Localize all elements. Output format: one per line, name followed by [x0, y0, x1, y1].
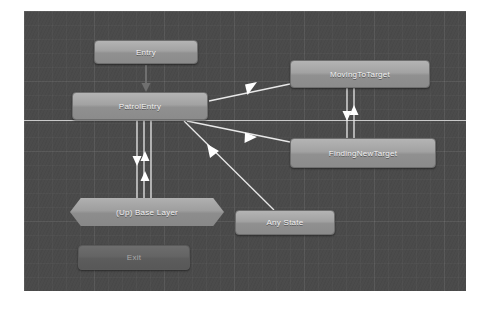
state-node-label: (Up) Base Layer	[116, 208, 178, 217]
transition-patrolentry-to-movingtotarget[interactable]	[209, 82, 290, 101]
transition-anystate-to-patrolentry[interactable]	[184, 121, 274, 210]
state-node-label: MovingToTarget	[330, 70, 390, 79]
state-node-label: Exit	[127, 253, 141, 262]
state-node-label: Entry	[136, 48, 156, 57]
state-machine-canvas[interactable]: Entry PatrolEntry MovingToTarget Finding…	[24, 11, 466, 291]
transition-baselayer-patrolentry[interactable]	[133, 120, 152, 200]
state-node-movingtotarget[interactable]: MovingToTarget	[290, 60, 430, 88]
state-node-patrolentry[interactable]: PatrolEntry	[72, 92, 208, 120]
state-node-label: FindingNewTarget	[329, 149, 397, 158]
state-node-label: Any State	[267, 218, 304, 227]
animator-window: Entry PatrolEntry MovingToTarget Finding…	[0, 0, 487, 312]
horizontal-divider-line	[24, 120, 466, 121]
state-node-any-state[interactable]: Any State	[235, 210, 335, 235]
state-node-findingnewtarget[interactable]: FindingNewTarget	[290, 138, 436, 168]
state-node-entry[interactable]: Entry	[94, 40, 198, 64]
transition-entry-to-patrolentry[interactable]	[142, 65, 151, 92]
state-node-exit[interactable]: Exit	[78, 245, 190, 270]
state-node-label: PatrolEntry	[119, 102, 161, 111]
state-node-base-layer-up[interactable]: (Up) Base Layer	[70, 198, 224, 226]
transition-movingtotarget-findingnewtarget[interactable]	[343, 88, 359, 138]
transition-patrolentry-to-findingnewtarget[interactable]	[187, 121, 290, 143]
